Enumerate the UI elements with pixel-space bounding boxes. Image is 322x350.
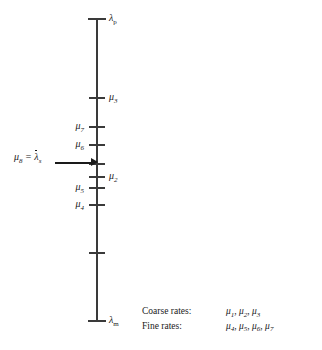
- tick-mu5: [89, 187, 105, 189]
- label-mu3: μ3: [109, 92, 118, 102]
- tick-mu7: [89, 126, 105, 128]
- label-mu7-symbol: μ: [75, 120, 80, 131]
- label-mu7-subscript: 7: [81, 126, 85, 134]
- label-mu3-subscript: 3: [114, 97, 118, 105]
- label-lambda-m: λm: [109, 315, 119, 325]
- legend-mu-subscript: 4: [231, 325, 235, 333]
- label-mu7: μ7: [62, 121, 84, 131]
- tick-mu6: [89, 144, 105, 146]
- legend-values-fine-rates: μ4, μ5, μ6, μ7: [226, 320, 273, 335]
- label-mu6-symbol: μ: [75, 138, 80, 149]
- legend-label-coarse-rates: Coarse rates:: [142, 305, 226, 319]
- label-mu6-subscript: 6: [81, 144, 85, 152]
- legend-values-coarse-rates: μ1, μ2, μ3: [226, 305, 260, 320]
- legend-mu-subscript: 7: [270, 325, 274, 333]
- tick-mu1: [89, 252, 105, 254]
- label-lambda-m-subscript: m: [113, 320, 118, 328]
- callout-mu-subscript: 8: [19, 157, 23, 165]
- callout-equals-sign: =: [23, 151, 35, 162]
- label-mu2-subscript: 2: [114, 176, 118, 184]
- callout-lambda-bar-group: λ: [34, 152, 38, 162]
- tick-mu2: [89, 176, 105, 178]
- tick-mu3: [89, 97, 105, 99]
- tick-lambda-p: [88, 18, 106, 20]
- rates-legend: Coarse rates: μ1, μ2, μ3 Fine rates: μ4,…: [142, 305, 273, 334]
- label-mu2: μ2: [109, 171, 118, 181]
- label-mu4: μ4: [62, 199, 84, 209]
- callout-lambda-symbol: λ: [34, 151, 38, 162]
- tick-lambda-m: [88, 320, 106, 322]
- legend-mu-subscript: 6: [257, 325, 261, 333]
- label-mu6: μ6: [62, 139, 84, 149]
- label-mu5-subscript: 5: [81, 187, 85, 195]
- label-mu4-symbol: μ: [75, 198, 80, 209]
- right-arrow-shaft: [55, 162, 93, 164]
- legend-mu-subscript: 3: [257, 311, 261, 319]
- rate-number-line-figure: λp μ3 μ2 λm μ7 μ6 μ5 μ4 μ8 = λs Coarse r…: [0, 0, 322, 350]
- label-lambda-p-subscript: p: [113, 18, 117, 26]
- legend-fine-mu-list: μ4, μ5, μ6, μ7: [226, 321, 273, 331]
- callout-mu8-equals-lambda-bar-s: μ8 = λs: [14, 152, 41, 162]
- overbar-icon: [35, 150, 37, 151]
- legend-coarse-mu-list: μ1, μ2, μ3: [226, 306, 260, 316]
- legend-mu-subscript: 2: [244, 311, 248, 319]
- label-mu5: μ5: [62, 182, 84, 192]
- legend-label-fine-rates: Fine rates:: [142, 320, 226, 334]
- legend-row-fine: Fine rates: μ4, μ5, μ6, μ7: [142, 320, 273, 335]
- label-mu4-subscript: 4: [81, 204, 85, 212]
- right-arrow-icon: [91, 158, 98, 166]
- legend-mu-subscript: 1: [231, 311, 235, 319]
- tick-mu4: [89, 204, 105, 206]
- label-lambda-p: λp: [109, 13, 117, 23]
- legend-row-coarse: Coarse rates: μ1, μ2, μ3: [142, 305, 273, 320]
- callout-lambda-subscript: s: [39, 157, 42, 165]
- label-mu5-symbol: μ: [75, 181, 80, 192]
- legend-mu-subscript: 5: [244, 325, 248, 333]
- vertical-axis-line: [96, 18, 98, 320]
